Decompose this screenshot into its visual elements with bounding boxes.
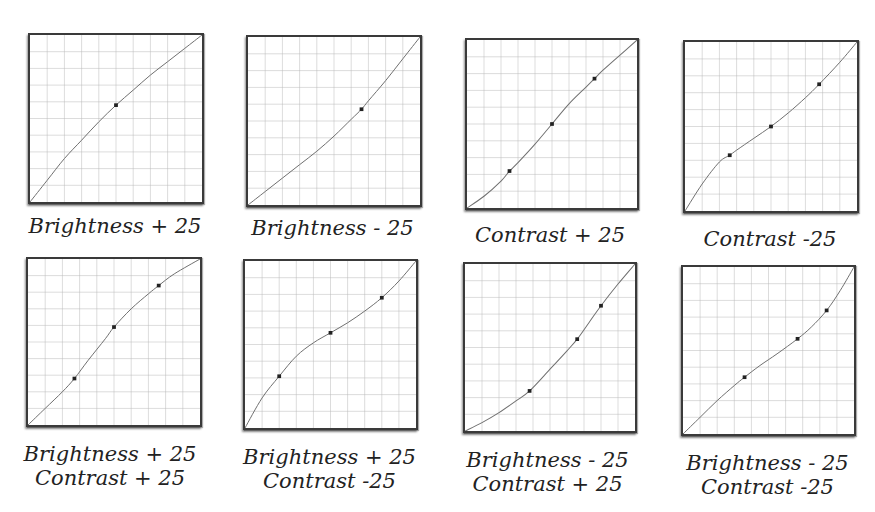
caption-line-1: Brightness - 25 bbox=[225, 216, 440, 240]
curve-control-point[interactable] bbox=[769, 125, 773, 129]
curve-control-point[interactable] bbox=[277, 374, 281, 378]
curve-svg bbox=[685, 42, 857, 211]
caption-line-1: Brightness + 25 bbox=[222, 445, 437, 469]
curve-control-point[interactable] bbox=[73, 377, 77, 381]
curve-svg bbox=[467, 40, 637, 208]
curve-control-point[interactable] bbox=[728, 153, 732, 157]
curve-graph bbox=[681, 265, 856, 436]
curve-control-point[interactable] bbox=[817, 82, 821, 86]
curve-control-point[interactable] bbox=[575, 337, 579, 341]
curve-graph bbox=[246, 35, 422, 207]
caption-line-2: Contrast -25 bbox=[222, 469, 437, 493]
panel-caption: Brightness + 25 Contrast -25 bbox=[222, 445, 437, 493]
panel-caption: Contrast + 25 bbox=[445, 223, 655, 247]
curve-graph bbox=[28, 33, 204, 204]
panel-caption: Contrast -25 bbox=[665, 227, 875, 251]
caption-line-1: Brightness - 25 bbox=[440, 448, 655, 472]
curve-svg bbox=[28, 259, 200, 425]
curve-control-point[interactable] bbox=[825, 309, 829, 313]
curve-control-point[interactable] bbox=[528, 389, 532, 393]
curve-control-point[interactable] bbox=[157, 284, 161, 288]
panel-caption: Brightness - 25 Contrast + 25 bbox=[440, 448, 655, 496]
curve-graph bbox=[243, 259, 418, 430]
curve-svg bbox=[245, 261, 416, 428]
curve-control-point[interactable] bbox=[360, 107, 364, 111]
caption-line-2: Contrast + 25 bbox=[5, 466, 215, 490]
caption-line-1: Brightness + 25 bbox=[5, 442, 215, 466]
curve-svg bbox=[465, 264, 635, 431]
caption-line-2: Contrast + 25 bbox=[440, 472, 655, 496]
panel-caption: Brightness - 25 Contrast -25 bbox=[660, 451, 875, 499]
curve-svg bbox=[248, 37, 420, 205]
curve-control-point[interactable] bbox=[508, 169, 512, 173]
curve-svg bbox=[683, 267, 854, 434]
curve-control-point[interactable] bbox=[593, 77, 597, 81]
curve-control-point[interactable] bbox=[599, 304, 603, 308]
curve-control-point[interactable] bbox=[114, 103, 118, 107]
panel-caption: Brightness + 25 Contrast + 25 bbox=[5, 442, 215, 490]
curve-svg bbox=[30, 35, 202, 202]
curve-control-point[interactable] bbox=[112, 325, 116, 329]
curve-graph bbox=[26, 257, 202, 427]
curve-graph bbox=[465, 38, 639, 210]
curve-graph bbox=[463, 262, 637, 433]
curve-control-point[interactable] bbox=[329, 331, 333, 335]
curve-control-point[interactable] bbox=[796, 337, 800, 341]
caption-line-2: Contrast -25 bbox=[660, 475, 875, 499]
caption-line-1: Brightness + 25 bbox=[10, 214, 220, 238]
curve-control-point[interactable] bbox=[380, 296, 384, 300]
panel-caption: Brightness - 25 bbox=[225, 216, 440, 240]
curve-control-point[interactable] bbox=[550, 122, 554, 126]
curve-control-point[interactable] bbox=[743, 375, 747, 379]
caption-line-1: Contrast + 25 bbox=[445, 223, 655, 247]
caption-line-1: Brightness - 25 bbox=[660, 451, 875, 475]
caption-line-1: Contrast -25 bbox=[665, 227, 875, 251]
curve-graph bbox=[683, 40, 859, 213]
panel-caption: Brightness + 25 bbox=[10, 214, 220, 238]
